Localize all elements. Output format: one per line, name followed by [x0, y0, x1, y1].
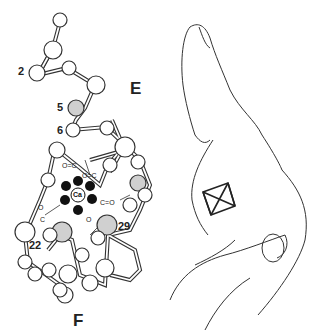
svg-text:O=C: O=C — [82, 172, 97, 179]
shaded-atom-5 — [68, 100, 84, 116]
residue-label-22: 22 — [29, 240, 41, 251]
svg-text:O: O — [38, 204, 44, 211]
octahedron-icon — [203, 183, 235, 215]
ef-hand-figure: O=C O=C C=O O C O 2 5 6 22 29 E F Ca — [0, 0, 323, 334]
residue-label-5: 5 — [57, 102, 63, 113]
svg-text:O=C: O=C — [62, 162, 77, 169]
residue-label-29: 29 — [118, 221, 130, 232]
svg-text:C=O: C=O — [100, 199, 115, 206]
residue-label-2: 2 — [18, 66, 24, 77]
hand-drawing — [170, 25, 306, 330]
svg-text:O: O — [86, 216, 92, 223]
calcium-ion-label: Ca — [73, 191, 82, 198]
residue-label-6: 6 — [57, 125, 63, 136]
helix-label-e: E — [130, 80, 141, 97]
svg-text:C: C — [40, 216, 45, 223]
atoms — [15, 13, 152, 303]
helix-label-f: F — [73, 312, 83, 329]
molecule-diagram: O=C O=C C=O O C O — [0, 0, 323, 334]
